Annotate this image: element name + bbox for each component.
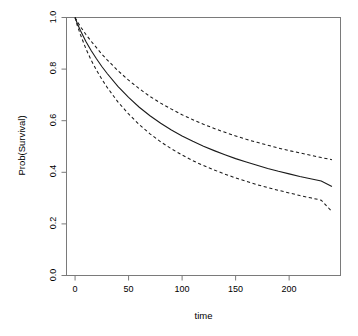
y-tick-label: 1.0 — [48, 7, 58, 27]
x-tick-label: 50 — [124, 284, 134, 294]
y-axis-tick-marks — [62, 18, 67, 276]
x-axis-tick-marks — [75, 276, 289, 281]
x-tick-label: 100 — [175, 284, 190, 294]
y-tick-label: 0.2 — [48, 213, 58, 233]
y-tick-label: 0.0 — [48, 265, 58, 285]
survival-estimate-curve — [75, 18, 332, 187]
x-tick-label: 0 — [73, 284, 78, 294]
y-tick-label: 0.6 — [48, 110, 58, 130]
survival-plot: 050100150200 0.00.20.40.60.81.0 time Pro… — [0, 0, 358, 336]
y-axis-title: Prob(Survival) — [16, 112, 27, 178]
x-tick-label: 200 — [282, 284, 297, 294]
lower-confidence-band-curve — [75, 18, 332, 212]
y-tick-label: 0.8 — [48, 58, 58, 78]
x-tick-label: 150 — [228, 284, 243, 294]
x-axis-title: time — [195, 310, 213, 321]
y-tick-label: 0.4 — [48, 161, 58, 181]
upper-confidence-band-curve — [75, 18, 332, 160]
